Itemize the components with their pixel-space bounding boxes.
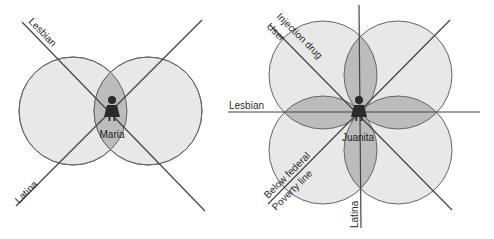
person-name-maria: Maria	[99, 129, 124, 140]
latina-label: Latina	[349, 200, 360, 228]
latina-label: Latina	[13, 178, 40, 205]
lesbian-label: Lesbian	[229, 100, 264, 111]
left-diagram: Lesbian Latina Maria	[13, 16, 205, 211]
person-name-juanita: Juanita	[342, 132, 375, 143]
intersectionality-diagram: Lesbian Latina Maria	[0, 0, 494, 239]
right-diagram: Injection drug User Lesbian Below federa…	[228, 5, 480, 228]
